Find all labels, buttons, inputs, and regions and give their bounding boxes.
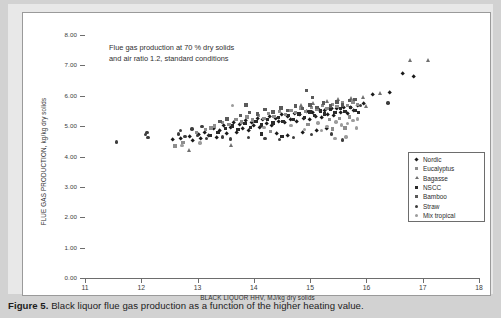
legend-label: Nordic	[423, 156, 441, 163]
x-tick-mark	[85, 278, 86, 283]
x-tick-label: 12	[129, 284, 153, 291]
x-tick-label: 15	[298, 284, 322, 291]
legend-label: Straw	[423, 203, 439, 210]
x-tick-mark	[141, 278, 142, 283]
x-tick-label: 18	[467, 284, 491, 291]
legend-item-nordic[interactable]: Nordic	[413, 155, 484, 164]
figure-block: 0.001.002.003.004.005.006.007.008.00 111…	[8, 4, 493, 294]
legend-label: NSCC	[423, 184, 441, 191]
y-tick-label: 0.00	[37, 275, 77, 281]
annotation-line-1: Flue gas production at 70 % dry solids	[109, 43, 234, 54]
x-tick-label: 17	[411, 284, 435, 291]
x-tick-mark	[254, 278, 255, 283]
legend-label: Mix tropical	[423, 212, 455, 219]
legend-item-bamboo[interactable]: Bamboo	[413, 192, 484, 201]
legend-item-nscc[interactable]: NSCC	[413, 183, 484, 192]
legend-marker-icon	[413, 212, 420, 219]
x-tick-mark	[479, 278, 480, 283]
x-tick-label: 13	[186, 284, 210, 291]
legend-label: Eucalyptus	[423, 165, 454, 172]
figure-caption: Figure 5. Black liquor flue gas producti…	[8, 300, 478, 311]
chart-annotation: Flue gas production at 70 % dry solids a…	[109, 43, 234, 64]
x-tick-label: 11	[73, 284, 97, 291]
y-axis-title: FLUE GAS PRODUCTION, kg/kg dry solids	[40, 82, 47, 242]
legend-marker-icon	[413, 193, 420, 200]
chart-legend: NordicEucalyptusBagasseNSCCBambooStrawMi…	[408, 152, 485, 222]
legend-item-bagasse[interactable]: Bagasse	[413, 174, 484, 183]
y-tick-label: 1.00	[37, 245, 77, 251]
legend-item-eucalyptus[interactable]: Eucalyptus	[413, 164, 484, 173]
y-tick-label: 8.00	[37, 32, 77, 38]
x-tick-mark	[198, 278, 199, 283]
legend-marker-icon	[413, 165, 420, 172]
x-tick-mark	[423, 278, 424, 283]
legend-label: Bamboo	[423, 193, 447, 200]
legend-label: Bagasse	[423, 175, 448, 182]
x-tick-label: 16	[354, 284, 378, 291]
chart-frame: 0.001.002.003.004.005.006.007.008.00 111…	[22, 12, 491, 296]
legend-item-straw[interactable]: Straw	[413, 201, 484, 210]
figure-caption-text: Black liquor flue gas production as a fu…	[51, 300, 364, 311]
legend-marker-icon	[413, 184, 420, 191]
figure-caption-label: Figure 5.	[8, 300, 48, 311]
legend-marker-icon	[413, 175, 420, 182]
legend-marker-icon	[413, 156, 420, 163]
legend-item-mix-tropical[interactable]: Mix tropical	[413, 211, 484, 220]
annotation-line-2: and air ratio 1.2, standard conditions	[109, 54, 234, 65]
x-tick-mark	[310, 278, 311, 283]
y-tick-label: 7.00	[37, 62, 77, 68]
x-tick-mark	[366, 278, 367, 283]
x-axis-line	[85, 278, 480, 279]
x-tick-label: 14	[242, 284, 266, 291]
legend-marker-icon	[413, 203, 420, 210]
page-background: 0.001.002.003.004.005.006.007.008.00 111…	[0, 0, 501, 318]
